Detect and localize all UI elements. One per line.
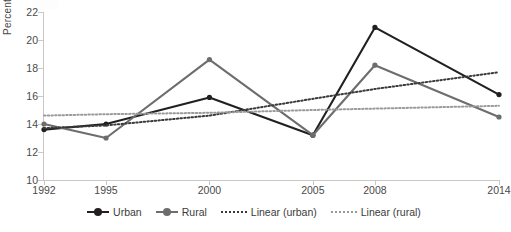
- data-point: [372, 63, 377, 68]
- chart-legend: Urban Rural Linear (urban) Linear (rural…: [0, 206, 508, 218]
- legend-item-linear-rural[interactable]: Linear (rural): [331, 206, 421, 218]
- legend-item-linear-urban[interactable]: Linear (urban): [221, 206, 317, 218]
- legend-label-rural: Rural: [182, 206, 207, 218]
- data-point: [310, 133, 315, 138]
- data-point: [496, 92, 501, 97]
- legend-item-rural[interactable]: Rural: [156, 206, 207, 218]
- series-line-rural: [44, 60, 499, 138]
- urban-marker-icon: [94, 208, 102, 216]
- data-point: [496, 114, 501, 119]
- legend-label-linear-rural: Linear (rural): [361, 206, 421, 218]
- linear-urban-swatch-icon: [221, 207, 247, 217]
- rural-line-swatch-icon: [156, 207, 178, 217]
- data-point: [103, 135, 108, 140]
- data-point: [207, 95, 212, 100]
- data-point: [41, 121, 46, 126]
- urban-line-swatch-icon: [87, 207, 109, 217]
- data-point: [207, 57, 212, 62]
- rural-marker-icon: [163, 208, 171, 216]
- linear-rural-swatch-icon: [331, 207, 357, 217]
- data-point: [372, 25, 377, 30]
- legend-label-urban: Urban: [113, 206, 142, 218]
- legend-item-urban[interactable]: Urban: [87, 206, 142, 218]
- series-line-linear-rural: [44, 106, 499, 116]
- legend-label-linear-urban: Linear (urban): [251, 206, 317, 218]
